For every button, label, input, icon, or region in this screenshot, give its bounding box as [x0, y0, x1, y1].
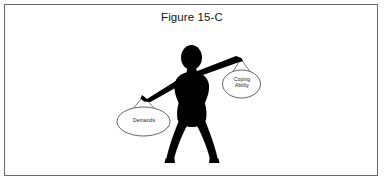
right-pan-label-line-2: Ability [223, 82, 261, 88]
left-pan-label: Demands [117, 117, 171, 123]
right-pan-label: Coping Ability [223, 76, 261, 88]
figure-container: Figure 15-C [0, 0, 384, 182]
balance-diagram [0, 0, 384, 182]
human-silhouette [141, 45, 244, 163]
